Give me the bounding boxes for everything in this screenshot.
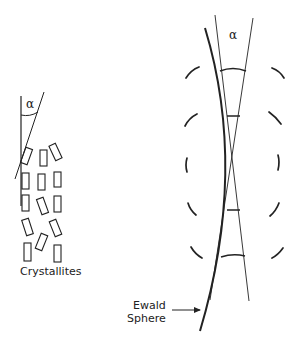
right-alpha-label: α	[229, 28, 237, 42]
arc-segment	[272, 248, 283, 258]
crystallite	[22, 195, 29, 211]
ewald-panel	[172, 15, 284, 331]
crystallite	[38, 174, 45, 190]
angle-arc-1	[220, 69, 246, 72]
crystallite	[35, 233, 47, 250]
crystallite	[24, 243, 31, 261]
left-alpha-label: α	[26, 97, 34, 111]
arc-segment	[188, 203, 196, 215]
crystallite	[40, 150, 47, 166]
crystallite	[49, 219, 61, 236]
crystallite	[20, 147, 32, 164]
arc-segment	[191, 247, 202, 258]
crystallite	[22, 173, 29, 189]
dashed-sphere-right	[269, 68, 284, 258]
angle-arc-4	[221, 255, 245, 257]
ewald-label-line1: Ewald	[133, 299, 166, 312]
arc-segment	[186, 67, 199, 78]
arc-segment	[270, 203, 279, 216]
angle-arc	[21, 112, 38, 116]
crystallite	[54, 172, 61, 187]
crystallite-group	[20, 143, 62, 262]
crystallite	[49, 143, 62, 160]
arc-segment	[272, 68, 284, 78]
dashed-sphere-left	[185, 67, 202, 258]
arc-segment	[186, 158, 187, 172]
crystallites-label: Crystallites	[20, 265, 82, 278]
arc-segment	[269, 112, 281, 124]
crystallite	[22, 218, 34, 235]
crystallite	[36, 197, 48, 214]
crystallites-panel	[15, 92, 62, 262]
crystallite	[54, 196, 61, 212]
arrow-head-icon	[194, 307, 201, 313]
diffraction-diagram: α Crystallites α Ewald Sphe	[0, 0, 296, 345]
ewald-label-line2: Sphere	[127, 312, 166, 325]
crystallite	[54, 245, 61, 262]
arc-segment	[185, 114, 197, 126]
arc-segment	[278, 155, 279, 170]
